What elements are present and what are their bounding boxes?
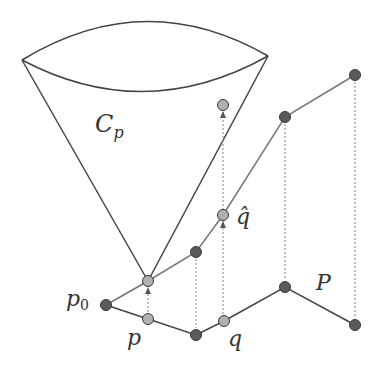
point-vertex-2: [191, 330, 202, 341]
point-q-top: [218, 100, 229, 111]
point-vertex-3: [280, 282, 291, 293]
point-p: [143, 314, 154, 325]
point-p0: [101, 300, 112, 311]
cone-top-arc: [22, 21, 268, 60]
point-q-hat: [218, 210, 229, 221]
label-q-hat: q̂: [236, 204, 250, 229]
points: [101, 70, 361, 341]
label-q: q: [228, 326, 242, 351]
arrow-icons: [145, 111, 226, 294]
cone-bottom-arc: [22, 56, 268, 92]
cone-left-edge: [22, 60, 148, 281]
label-cone: Cp: [95, 110, 124, 142]
point-p-lifted: [143, 276, 154, 287]
arrow-up-icon: [145, 287, 151, 294]
point-vertex-3-lifted: [280, 112, 291, 123]
cone: [22, 21, 268, 281]
diagram-canvas: Cp q̂ p0 p q P: [0, 0, 384, 372]
point-vertex-2-lifted: [191, 247, 202, 258]
point-q: [219, 316, 230, 327]
point-vertex-4: [350, 320, 361, 331]
diagram-svg: Cp q̂ p0 p q P: [0, 0, 384, 372]
arrow-up-icon: [220, 221, 226, 228]
label-p: p: [127, 325, 141, 350]
arrow-up-icon: [220, 111, 226, 118]
label-P: P: [315, 270, 332, 295]
label-p0: p0: [66, 286, 89, 313]
point-vertex-4-lifted: [350, 70, 361, 81]
